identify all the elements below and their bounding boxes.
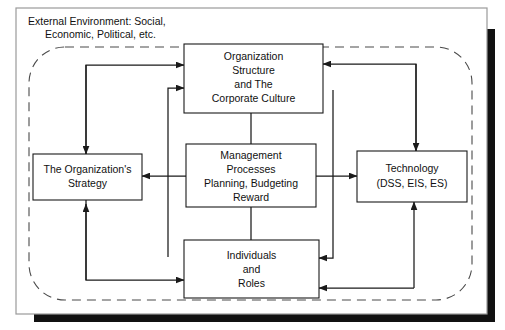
node-organization-structure-line-4: Corporate Culture (212, 92, 296, 104)
node-individuals-roles-line-2: and (243, 263, 261, 275)
node-organization-structure-line-3: and The (234, 78, 272, 90)
node-technology-line-1: Technology (385, 162, 439, 174)
node-organization-strategy-line-1: The Organization's (44, 163, 132, 175)
node-organization-structure-line-2: Structure (232, 64, 275, 76)
node-technology[interactable]: Technology (DSS, EIS, ES) (357, 151, 467, 202)
node-organization-strategy-line-2: Strategy (68, 177, 108, 189)
external-environment-label-line2: Economic, Political, etc. (45, 28, 156, 40)
node-organization-structure[interactable]: Organization Structure and The Corporate… (184, 44, 323, 113)
node-organization-strategy[interactable]: The Organization's Strategy (33, 154, 142, 200)
external-environment-label-line1: External Environment: Social, (28, 15, 166, 27)
node-management-processes-line-4: Reward (233, 191, 269, 203)
node-management-processes[interactable]: Management Processes Planning, Budgeting… (186, 144, 316, 207)
node-individuals-roles-line-1: Individuals (227, 249, 277, 261)
figure-root: External Environment: Social, Economic, … (0, 0, 505, 330)
node-organization-structure-line-1: Organization (224, 50, 284, 62)
figure-shadow-bottom (34, 314, 495, 322)
node-individuals-roles-line-3: Roles (238, 277, 265, 289)
node-management-processes-line-2: Processes (226, 163, 275, 175)
node-individuals-roles[interactable]: Individuals and Roles (184, 240, 319, 298)
node-management-processes-line-1: Management (220, 149, 281, 161)
figure-shadow-right (487, 29, 495, 322)
diagram-canvas: External Environment: Social, Economic, … (0, 0, 505, 330)
node-management-processes-line-3: Planning, Budgeting (204, 177, 298, 189)
node-technology-line-2: (DSS, EIS, ES) (376, 177, 447, 189)
